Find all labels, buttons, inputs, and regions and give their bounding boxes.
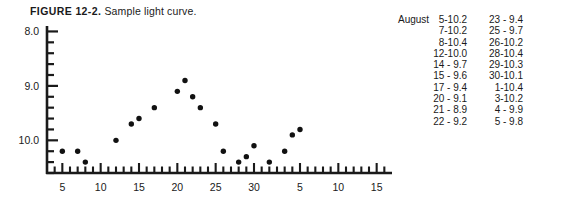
table-day-col1: 21 [433,104,444,115]
table-day-col1: 7 [433,25,444,36]
table-day-col2: 26 [489,37,500,48]
observation-table-grid: August5-10.223- 9.47-10.225- 9.78-10.426… [398,14,523,127]
data-point [190,94,195,99]
data-point [113,138,118,143]
data-point [251,143,256,148]
table-row: 22- 9.25- 9.8 [398,116,523,127]
table-day-col2: 29 [489,59,500,70]
data-point [297,127,302,132]
table-month-label [398,116,433,127]
table-magnitude-col2: -10.1 [500,70,523,81]
table-magnitude-col2: -10.4 [500,82,523,93]
table-row: 21- 8.94- 9.9 [398,104,523,115]
table-day-col2: 3 [489,93,500,104]
data-point [244,154,249,159]
table-magnitude-col2: -10.3 [500,59,523,70]
table-row: 15- 9.630-10.1 [398,70,523,81]
data-point [267,159,272,164]
data-point [60,149,65,154]
table-day-col2: 28 [489,48,500,59]
table-row: August5-10.223- 9.4 [398,14,523,25]
table-day-col2: 30 [489,70,500,81]
table-day-col1: 5 [433,14,444,25]
table-day-col1: 15 [433,70,444,81]
table-row: 7-10.225- 9.7 [398,25,523,36]
data-point [152,105,157,110]
table-magnitude-col1: - 9.6 [444,70,489,81]
table-magnitude-col2: -10.2 [500,93,523,104]
data-point-group [60,78,303,165]
table-magnitude-col2: - 9.8 [500,116,523,127]
x-axis-tick-label: 5 [297,181,303,193]
x-axis-tick-label: 15 [133,181,145,193]
figure-number: FIGURE 12-2. [30,5,101,17]
table-row: 20- 9.13-10.2 [398,93,523,104]
figure-container: FIGURE 12-2. Sample light curve. 8.09.01… [0,0,570,209]
data-point [198,105,203,110]
table-month-label [398,93,433,104]
light-curve-plot: 8.09.010.05101520253051015 [0,18,400,209]
table-magnitude-col1: - 9.7 [444,59,489,70]
table-row: 17- 9.41-10.4 [398,82,523,93]
table-day-col1: 20 [433,93,444,104]
table-month-label [398,48,433,59]
data-point [182,78,187,83]
table-row: 8-10.426-10.2 [398,37,523,48]
table-row: 12-10.028-10.4 [398,48,523,59]
table-month-label: August [398,14,433,25]
table-month-label [398,70,433,81]
table-month-label [398,82,433,93]
x-axis-tick-label: 10 [332,181,344,193]
table-month-label [398,104,433,115]
table-magnitude-col2: - 9.9 [500,104,523,115]
x-axis-tick-label: 5 [59,181,65,193]
data-point [136,116,141,121]
table-month-label [398,37,433,48]
data-point [129,121,134,126]
table-day-col2: 4 [489,104,500,115]
table-day-col2: 5 [489,116,500,127]
table-magnitude-col1: - 9.1 [444,93,489,104]
table-magnitude-col1: -10.2 [444,14,489,25]
x-axis-tick-label: 30 [248,181,260,193]
data-point [83,159,88,164]
x-axis-tick-label: 20 [171,181,183,193]
y-axis-tick-label: 9.0 [24,80,39,92]
table-magnitude-col1: -10.0 [444,48,489,59]
data-point [213,121,218,126]
table-day-col1: 14 [433,59,444,70]
x-axis-tick-label: 10 [95,181,107,193]
data-point [75,149,80,154]
table-magnitude-col1: -10.4 [444,37,489,48]
table-magnitude-col1: -10.2 [444,25,489,36]
data-point [175,89,180,94]
table-magnitude-col1: - 9.2 [444,116,489,127]
data-point [221,149,226,154]
plot-svg: 8.09.010.05101520253051015 [0,18,400,209]
table-day-col2: 23 [489,14,500,25]
table-magnitude-col2: - 9.7 [500,25,523,36]
y-axis-tick-label: 8.0 [24,25,39,37]
table-magnitude-col1: - 9.4 [444,82,489,93]
table-month-label [398,25,433,36]
data-point [290,132,295,137]
table-day-col2: 1 [489,82,500,93]
table-magnitude-col2: -10.2 [500,37,523,48]
table-day-col1: 17 [433,82,444,93]
figure-caption: FIGURE 12-2. Sample light curve. [30,5,197,17]
table-magnitude-col2: - 9.4 [500,14,523,25]
observation-table-body: August5-10.223- 9.47-10.225- 9.78-10.426… [398,14,523,127]
figure-caption-text: Sample light curve. [104,5,196,17]
observation-table: August5-10.223- 9.47-10.225- 9.78-10.426… [398,14,523,127]
table-day-col1: 8 [433,37,444,48]
data-point [236,159,241,164]
data-point [282,149,287,154]
y-axis-tick-label: 10.0 [19,134,40,146]
table-day-col2: 25 [489,25,500,36]
x-axis-tick-label: 15 [371,181,383,193]
table-magnitude-col2: -10.4 [500,48,523,59]
table-month-label [398,59,433,70]
table-day-col1: 12 [433,48,444,59]
x-axis-tick-label: 25 [210,181,222,193]
table-row: 14- 9.729-10.3 [398,59,523,70]
